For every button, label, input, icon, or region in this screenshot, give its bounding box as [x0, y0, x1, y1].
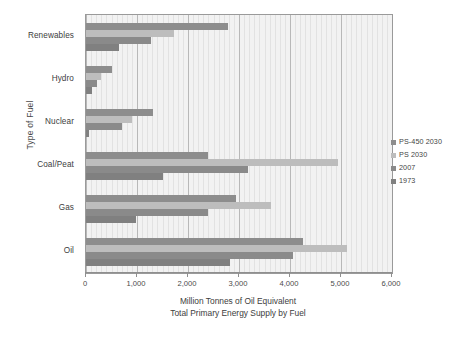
gridline-minor	[142, 15, 143, 273]
bar	[86, 216, 136, 223]
gridline-minor	[259, 15, 260, 273]
gridline-major	[239, 15, 240, 273]
bar	[86, 30, 174, 37]
bar	[86, 87, 92, 94]
gridline-minor	[198, 15, 199, 273]
x-axis-tick-label: 3,000	[215, 279, 261, 288]
gridline-minor	[219, 15, 220, 273]
plot-inner	[86, 15, 392, 273]
gridline-minor	[295, 15, 296, 273]
gridline-minor	[305, 15, 306, 273]
legend-swatch-icon	[391, 179, 396, 184]
bar	[86, 252, 293, 259]
legend: PS-450 2030PS 203020071973	[391, 138, 458, 190]
bar-chart: Type of Fuel RenewablesHydroNuclearCoal/…	[0, 0, 458, 340]
x-axis-tick-label: 5,000	[317, 279, 363, 288]
bar-group	[86, 152, 392, 180]
x-axis-tick	[187, 273, 188, 277]
gridline-minor	[173, 15, 174, 273]
x-axis-tick	[289, 273, 290, 277]
gridline-minor	[178, 15, 179, 273]
gridline-minor	[152, 15, 153, 273]
gridline-minor	[122, 15, 123, 273]
x-axis-tick-label: 6,000	[368, 279, 414, 288]
gridline-minor	[183, 15, 184, 273]
x-axis-tick	[85, 273, 86, 277]
gridline-minor	[112, 15, 113, 273]
bar	[86, 173, 163, 180]
bar	[86, 245, 347, 252]
legend-item[interactable]: 1973	[391, 177, 458, 190]
gridline-minor	[346, 15, 347, 273]
bar	[86, 159, 338, 166]
gridline-major	[341, 15, 342, 273]
gridline-minor	[351, 15, 352, 273]
gridline-minor	[96, 15, 97, 273]
gridline-minor	[270, 15, 271, 273]
y-axis-category-labels: RenewablesHydroNuclearCoal/PeatGasOil	[0, 14, 80, 272]
gridline-minor	[280, 15, 281, 273]
legend-label: 1973	[399, 176, 415, 185]
y-axis-category-label: Renewables	[0, 31, 74, 40]
gridline-minor	[249, 15, 250, 273]
x-axis-title-line2: Total Primary Energy Supply by Fuel	[85, 308, 391, 320]
x-axis-tick	[391, 273, 392, 277]
bar-group	[86, 195, 392, 223]
gridline-minor	[229, 15, 230, 273]
gridline-minor	[117, 15, 118, 273]
gridline-minor	[356, 15, 357, 273]
gridline-minor	[224, 15, 225, 273]
x-axis-tick-label: 4,000	[266, 279, 312, 288]
gridline-minor	[265, 15, 266, 273]
gridline-minor	[127, 15, 128, 273]
gridline-minor	[157, 15, 158, 273]
plot-area	[85, 14, 393, 274]
gridline-minor	[367, 15, 368, 273]
gridline-minor	[372, 15, 373, 273]
y-axis-category-label: Coal/Peat	[0, 160, 74, 169]
gridline-minor	[147, 15, 148, 273]
legend-label: 2007	[399, 163, 415, 172]
gridline-major	[188, 15, 189, 273]
bar	[86, 109, 153, 116]
x-axis-title: Million Tonnes of Oil Equivalent Total P…	[85, 296, 391, 319]
gridline-minor	[336, 15, 337, 273]
y-axis-category-label: Gas	[0, 203, 74, 212]
bar	[86, 195, 236, 202]
gridline-minor	[106, 15, 107, 273]
x-axis-tick	[238, 273, 239, 277]
gridline-minor	[321, 15, 322, 273]
bar	[86, 44, 119, 51]
bar	[86, 152, 208, 159]
bar-group	[86, 109, 392, 137]
bar	[86, 23, 228, 30]
gridline-minor	[331, 15, 332, 273]
gridline-minor	[377, 15, 378, 273]
x-axis-tick-label: 2,000	[164, 279, 210, 288]
bar-group	[86, 238, 392, 266]
bar-group	[86, 66, 392, 94]
bar	[86, 66, 112, 73]
bar	[86, 202, 271, 209]
gridline-minor	[101, 15, 102, 273]
gridline-minor	[310, 15, 311, 273]
legend-label: PS-450 2030	[399, 137, 442, 146]
gridline-minor	[234, 15, 235, 273]
bar	[86, 209, 208, 216]
gridline-minor	[254, 15, 255, 273]
bar-group	[86, 23, 392, 51]
bar	[86, 116, 132, 123]
x-axis-tick	[340, 273, 341, 277]
legend-swatch-icon	[391, 166, 396, 171]
x-axis-tick-label: 0	[62, 279, 108, 288]
gridline-minor	[203, 15, 204, 273]
gridline-minor	[275, 15, 276, 273]
bar	[86, 80, 97, 87]
bar	[86, 259, 230, 266]
y-axis-category-label: Nuclear	[0, 117, 74, 126]
gridline-major	[137, 15, 138, 273]
gridline-minor	[285, 15, 286, 273]
gridline-minor	[132, 15, 133, 273]
y-axis-category-label: Hydro	[0, 74, 74, 83]
bar	[86, 37, 151, 44]
